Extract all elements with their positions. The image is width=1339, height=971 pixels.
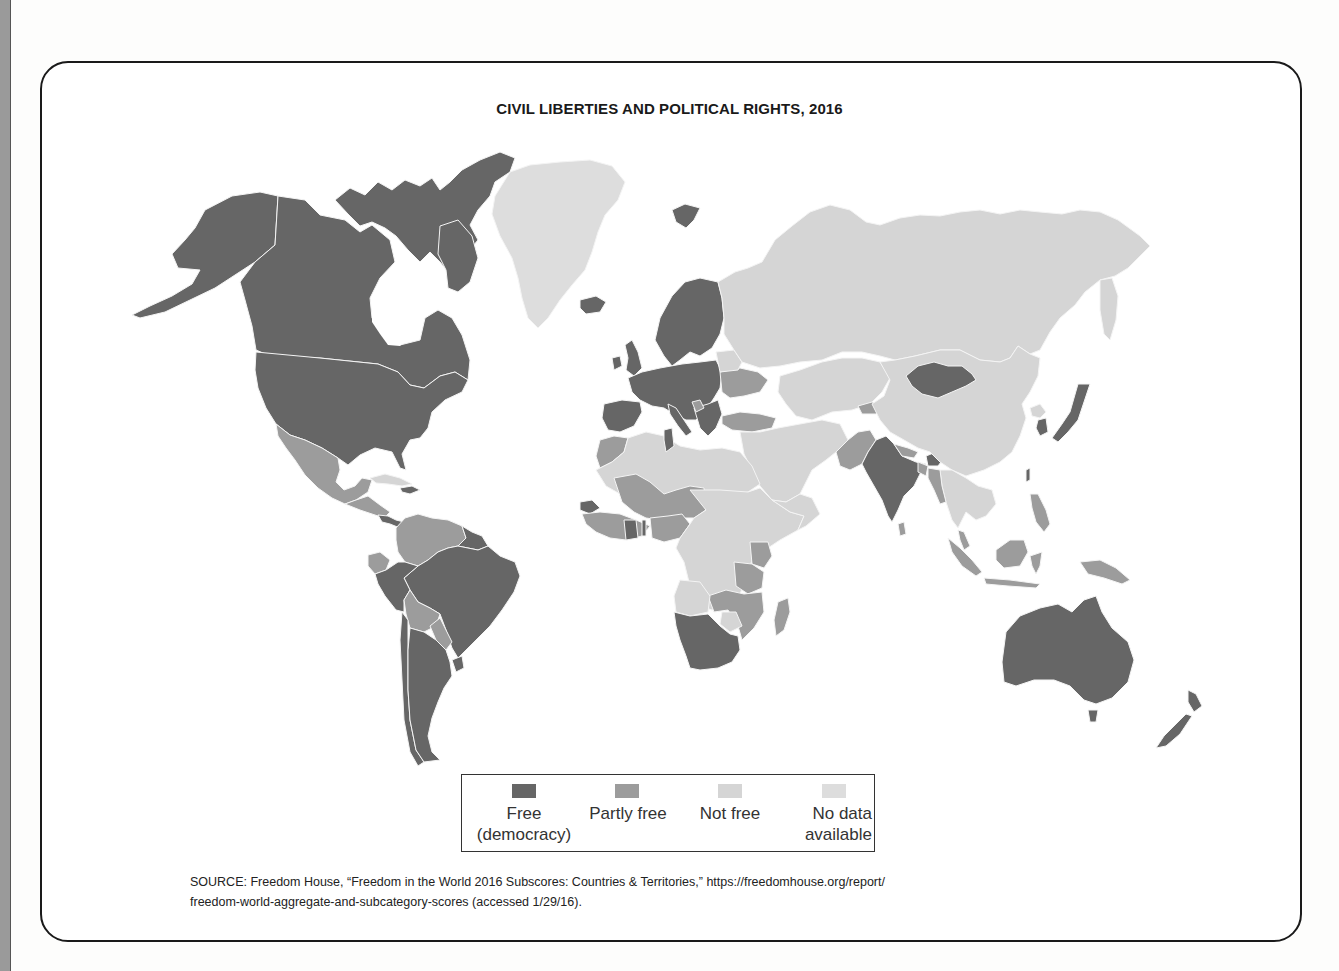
- region-philippines: [1030, 494, 1050, 532]
- source-line-2: freedom-world-aggregate-and-subcategory-…: [190, 892, 1150, 912]
- region-russia: [718, 205, 1150, 368]
- region-hispaniola: [400, 486, 420, 494]
- region-madagascar: [774, 598, 790, 636]
- region-scandinavia: [655, 278, 724, 366]
- region-southeast-asia: [940, 470, 996, 528]
- legend-label-partly-free: Partly free: [580, 803, 676, 824]
- region-australia: [1002, 596, 1134, 704]
- region-sulawesi: [1030, 552, 1042, 574]
- region-japan: [1052, 384, 1090, 442]
- region-uk: [625, 340, 642, 376]
- source-citation: SOURCE: Freedom House, “Freedom in the W…: [190, 872, 1150, 912]
- region-turkey: [722, 412, 776, 432]
- region-south-korea: [1036, 418, 1048, 436]
- region-iceland: [580, 296, 606, 314]
- region-iberia: [602, 400, 642, 432]
- region-uruguay: [452, 656, 464, 672]
- region-benin: [642, 520, 646, 536]
- region-ghana: [624, 520, 638, 540]
- legend-swatch-partly-free: [615, 784, 639, 798]
- legend-label-free: Free (democracy): [472, 803, 576, 845]
- region-west-africa: [582, 512, 650, 540]
- region-tasmania: [1088, 710, 1098, 722]
- region-india: [862, 436, 926, 522]
- region-java: [984, 578, 1040, 588]
- map-legend: Free (democracy) Partly free Not free No…: [461, 774, 875, 852]
- region-borneo: [996, 540, 1028, 568]
- legend-swatch-no-data: [822, 784, 846, 798]
- region-kamchatka: [1100, 278, 1118, 340]
- legend-swatch-free: [512, 784, 536, 798]
- legend-label-not-free: Not free: [688, 803, 772, 824]
- region-new-zealand-south: [1156, 714, 1192, 748]
- region-sri-lanka: [898, 522, 906, 536]
- region-taiwan: [1026, 468, 1030, 482]
- region-new-guinea: [1080, 560, 1130, 584]
- region-ireland: [612, 356, 622, 370]
- region-north-korea: [1030, 404, 1046, 418]
- legend-label-no-data: No data available: [792, 803, 872, 845]
- legend-swatch-not-free: [718, 784, 742, 798]
- source-line-1: SOURCE: Freedom House, “Freedom in the W…: [190, 872, 1150, 892]
- region-cuba: [370, 474, 412, 486]
- region-malaysia: [958, 530, 970, 550]
- region-ukraine: [720, 368, 768, 398]
- region-svalbard: [672, 204, 700, 228]
- region-kenya: [750, 542, 772, 568]
- region-new-zealand-north: [1188, 690, 1202, 712]
